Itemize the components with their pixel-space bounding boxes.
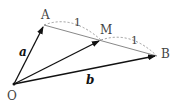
vector-label-b: b xyxy=(86,73,94,87)
point-label-a: A xyxy=(40,8,50,22)
dashed-arc-am xyxy=(44,22,101,40)
origin-point xyxy=(13,83,16,86)
vector-b xyxy=(14,56,155,84)
ratio-label-mb: 1 xyxy=(131,34,138,47)
point-label-o: O xyxy=(7,89,17,103)
ratio-label-am: 1 xyxy=(74,16,81,29)
vector-label-a: a xyxy=(19,45,27,59)
point-label-b: B xyxy=(161,47,170,61)
vector-diagram: A M B O 1 1 a b xyxy=(0,0,180,110)
point-label-m: M xyxy=(100,23,112,37)
